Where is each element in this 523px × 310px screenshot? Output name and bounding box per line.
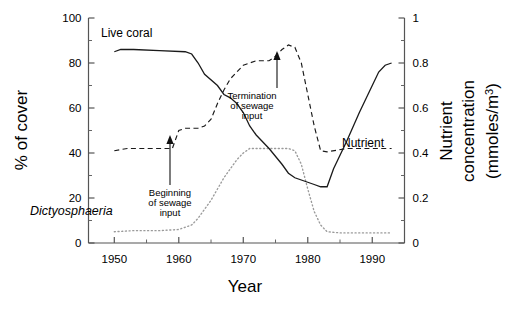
x-axis-title: Year bbox=[228, 277, 263, 296]
left-tick-label: 40 bbox=[69, 147, 82, 159]
y-axis-title-left: % of cover bbox=[12, 90, 31, 171]
right-axis-ticks bbox=[399, 18, 405, 243]
live-coral-label: Live coral bbox=[101, 26, 152, 40]
x-tick-label: 1950 bbox=[101, 253, 127, 265]
arrow-head bbox=[166, 135, 173, 144]
right-tick-label: 0.8 bbox=[413, 57, 429, 69]
right-tick-label: 0.4 bbox=[413, 147, 430, 159]
y-axis-title-right-line1: Nutrient bbox=[437, 101, 456, 161]
right-tick-label: 0 bbox=[413, 237, 419, 249]
nutrient-label: Nutrient bbox=[342, 136, 385, 150]
left-tick-label: 60 bbox=[69, 102, 82, 114]
x-axis-ticks bbox=[114, 237, 372, 243]
right-axis-tick-labels: 00.20.40.60.81 bbox=[413, 12, 430, 249]
left-tick-label: 80 bbox=[69, 57, 82, 69]
unit-close: ) bbox=[483, 83, 502, 89]
dictyosphaeria-label: Dictyosphaeria bbox=[30, 204, 113, 218]
left-tick-label: 0 bbox=[75, 237, 81, 249]
right-tick-label: 0.2 bbox=[413, 192, 429, 204]
axes-frame bbox=[89, 18, 405, 243]
x-tick-label: 1990 bbox=[359, 253, 385, 265]
y-axis-title-right: Nutrient concentration (mmoles/m3) bbox=[437, 80, 502, 182]
x-tick-label: 1980 bbox=[295, 253, 321, 265]
left-tick-label: 100 bbox=[62, 12, 81, 24]
y-axis-title-right-line2: concentration bbox=[459, 80, 478, 182]
unit-open: (mmoles/m bbox=[483, 95, 502, 179]
right-tick-label: 0.6 bbox=[413, 102, 429, 114]
left-tick-label: 20 bbox=[69, 192, 82, 204]
x-axis-tick-labels: 19501960197019801990 bbox=[101, 253, 385, 265]
right-tick-label: 1 bbox=[413, 12, 419, 24]
chart-figure: 020406080100 00.20.40.60.81 195019601970… bbox=[0, 0, 523, 310]
ann-term-line3: input bbox=[242, 110, 263, 121]
coral-nutrient-line-chart: 020406080100 00.20.40.60.81 195019601970… bbox=[0, 0, 523, 310]
ann-begin-line3: input bbox=[160, 207, 181, 218]
y-axis-title-right-line3: (mmoles/m3) bbox=[483, 83, 502, 179]
x-tick-label: 1960 bbox=[166, 253, 192, 265]
annotation-termination-sewage-text: Termination of sewage input bbox=[227, 90, 276, 121]
annotation-beginning-sewage-text: Beginning of sewage input bbox=[148, 187, 191, 218]
arrow-head bbox=[273, 51, 280, 60]
x-tick-label: 1970 bbox=[230, 253, 256, 265]
annotation-beginning-sewage-arrow bbox=[166, 135, 173, 185]
